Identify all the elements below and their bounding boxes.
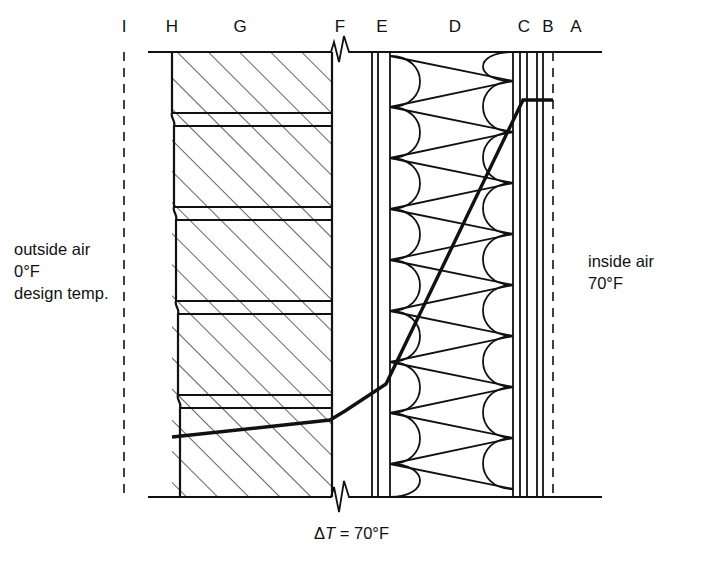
diagram-canvas: I H G F E D C B A outside air 0°F design… bbox=[0, 0, 703, 566]
layer-label-E: E bbox=[367, 18, 397, 35]
inside-air-line-1: inside air bbox=[588, 250, 654, 272]
outside-air-temperature: 0°F bbox=[14, 260, 108, 282]
layer-label-G: G bbox=[225, 18, 255, 35]
layer-label-B: B bbox=[533, 18, 563, 35]
equals-sign: = bbox=[335, 524, 354, 542]
delta-t-caption: ΔT = 70°F bbox=[0, 524, 703, 543]
batt-insulation-symbol bbox=[390, 52, 513, 497]
outside-air-line-3: design temp. bbox=[14, 282, 108, 304]
inside-air-temperature: 70°F bbox=[588, 272, 654, 294]
temperature-variable: T bbox=[325, 524, 335, 542]
delta-t-value: 70°F bbox=[354, 524, 389, 542]
interior-finish-layer-b bbox=[537, 52, 543, 497]
layer-label-F: F bbox=[325, 18, 355, 35]
outside-air-annotation: outside air 0°F design temp. bbox=[14, 238, 108, 304]
masonry-hatch-fill bbox=[172, 52, 332, 497]
layer-label-D: D bbox=[440, 18, 470, 35]
layer-label-H: H bbox=[157, 18, 187, 35]
layer-label-I: I bbox=[109, 18, 139, 35]
outside-air-line-1: outside air bbox=[14, 238, 108, 260]
inside-air-annotation: inside air 70°F bbox=[588, 250, 654, 294]
sheathing-board-layer-c bbox=[520, 52, 527, 497]
delta-symbol: Δ bbox=[314, 524, 325, 542]
layer-label-A: A bbox=[561, 18, 591, 35]
